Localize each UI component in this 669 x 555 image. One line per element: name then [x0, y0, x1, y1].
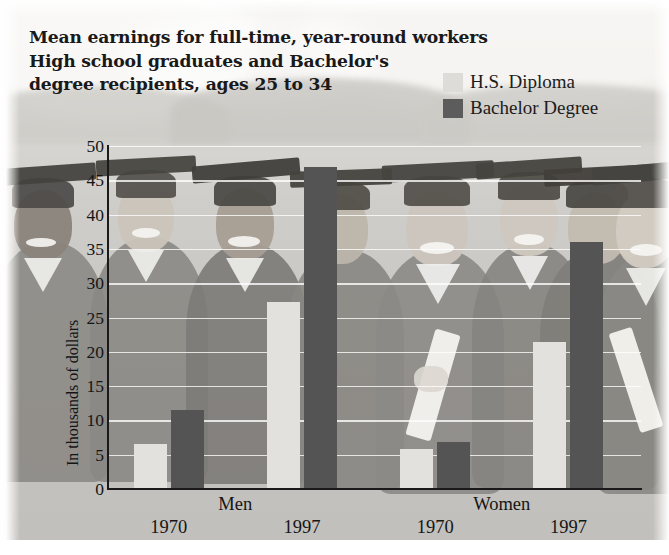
bar-women-1997-h-s-diploma [533, 342, 566, 489]
y-axis-line [107, 145, 109, 490]
bars-layer [108, 146, 641, 489]
x-axis-year-women-1970: 1970 [390, 517, 480, 538]
bar-women-1997-bachelor-degree [570, 242, 603, 489]
y-axis-tick-label: 20 [58, 341, 104, 362]
bar-men-1997-bachelor-degree [304, 167, 337, 489]
y-axis-tick-label: 0 [58, 479, 104, 500]
bar-men-1970-bachelor-degree [171, 410, 204, 489]
y-axis-tick-label: 10 [58, 410, 104, 431]
x-axis-year-men-1970: 1970 [124, 517, 214, 538]
y-axis-tick-label: 35 [58, 238, 104, 259]
chart-legend: H.S. Diploma Bachelor Degree [443, 69, 598, 121]
y-axis-tick-label: 40 [58, 204, 104, 225]
legend-item-bachelor-degree: Bachelor Degree [443, 95, 598, 121]
x-axis-group-men: Men [175, 494, 295, 515]
x-axis-group-women: Women [442, 494, 562, 515]
title-line-3: degree recipients, ages 25 to 34 [29, 73, 459, 97]
bar-men-1997-h-s-diploma [267, 302, 300, 489]
bottom-margin [0, 540, 669, 555]
x-axis-year-men-1997: 1997 [257, 517, 347, 538]
x-axis-line [107, 488, 642, 490]
legend-label-hs-diploma: H.S. Diploma [470, 71, 575, 93]
legend-swatch-bachelor-degree [443, 99, 463, 118]
title-line-1: Mean earnings for full-time, year-round … [29, 26, 459, 50]
legend-label-bachelor-degree: Bachelor Degree [470, 97, 598, 119]
y-axis-tick-label: 45 [58, 170, 104, 191]
title-line-2: High school graduates and Bachelor's [29, 50, 459, 74]
x-axis-year-women-1997: 1997 [523, 517, 613, 538]
y-axis-tick-label: 30 [58, 273, 104, 294]
legend-swatch-hs-diploma [443, 73, 463, 92]
bar-men-1970-h-s-diploma [134, 444, 167, 489]
chart-figure: Mean earnings for full-time, year-round … [0, 0, 669, 555]
bar-women-1970-bachelor-degree [437, 442, 470, 489]
y-axis-tick-label: 50 [58, 136, 104, 157]
y-axis-tick-label: 25 [58, 307, 104, 328]
y-axis-tick-labels: 50454035302520151050 [48, 146, 104, 489]
y-axis-tick-label: 5 [58, 444, 104, 465]
legend-item-hs-diploma: H.S. Diploma [443, 69, 598, 95]
chart-title: Mean earnings for full-time, year-round … [29, 26, 459, 97]
y-axis-tick-label: 15 [58, 376, 104, 397]
plot-area [108, 146, 641, 489]
bar-women-1970-h-s-diploma [400, 449, 433, 489]
